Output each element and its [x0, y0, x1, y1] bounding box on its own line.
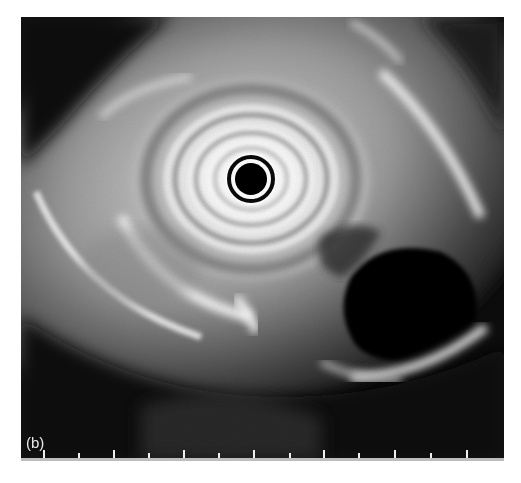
scale-bar — [21, 458, 504, 461]
scale-tick — [430, 453, 432, 458]
scale-tick — [148, 453, 150, 458]
panel-label: (b) — [26, 434, 44, 451]
ultrasound-render — [21, 17, 504, 460]
scale-tick — [289, 453, 291, 458]
scale-tick — [466, 450, 468, 458]
scale-tick — [78, 453, 80, 458]
ultrasound-image — [21, 17, 504, 460]
scale-tick — [253, 450, 255, 458]
scale-tick — [183, 450, 185, 458]
scale-tick — [323, 450, 325, 458]
scale-tick — [358, 453, 360, 458]
scale-tick — [113, 450, 115, 458]
scale-tick — [394, 450, 396, 458]
scale-tick — [218, 453, 220, 458]
scale-tick — [43, 450, 45, 458]
